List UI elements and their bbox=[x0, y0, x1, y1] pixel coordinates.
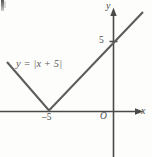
equation-annotation: y = |x + 5| bbox=[16, 59, 62, 70]
plot-area bbox=[0, 0, 152, 157]
y-tick-label-5: 5 bbox=[99, 36, 104, 46]
absolute-value-graph-figure: y = |x + 5| y x O 5 –5 bbox=[0, 0, 152, 157]
x-axis-label: x bbox=[141, 106, 145, 116]
y-axis-label: y bbox=[106, 1, 110, 11]
origin-label: O bbox=[100, 112, 107, 122]
x-tick-label-minus-5: –5 bbox=[42, 113, 52, 123]
